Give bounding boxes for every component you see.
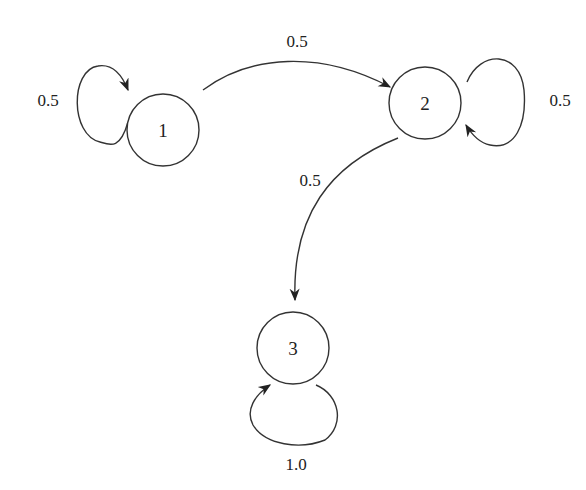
edge-3-to-3: 1.0 [250,385,337,474]
state-node-1: 1 [127,94,199,166]
edge-label-3-3: 1.0 [285,455,306,474]
state-label-1: 1 [158,120,168,141]
edge-label-1-2: 0.5 [286,32,307,51]
edge-2-to-3: 0.5 [295,138,398,300]
state-label-2: 2 [420,93,430,114]
edge-2-to-2: 0.5 [466,59,571,146]
edge-label-1-1: 0.5 [37,91,58,110]
edge-label-2-3: 0.5 [299,171,320,190]
state-label-3: 3 [288,338,298,359]
edge-1-to-1: 0.5 [37,66,128,145]
state-node-2: 2 [389,67,461,139]
state-node-3: 3 [257,312,329,384]
edge-label-2-2: 0.5 [549,91,570,110]
markov-chain-diagram: 0.5 0.5 0.5 0.5 1.0 1 2 3 [0,0,586,490]
edge-1-to-2: 0.5 [203,32,390,90]
